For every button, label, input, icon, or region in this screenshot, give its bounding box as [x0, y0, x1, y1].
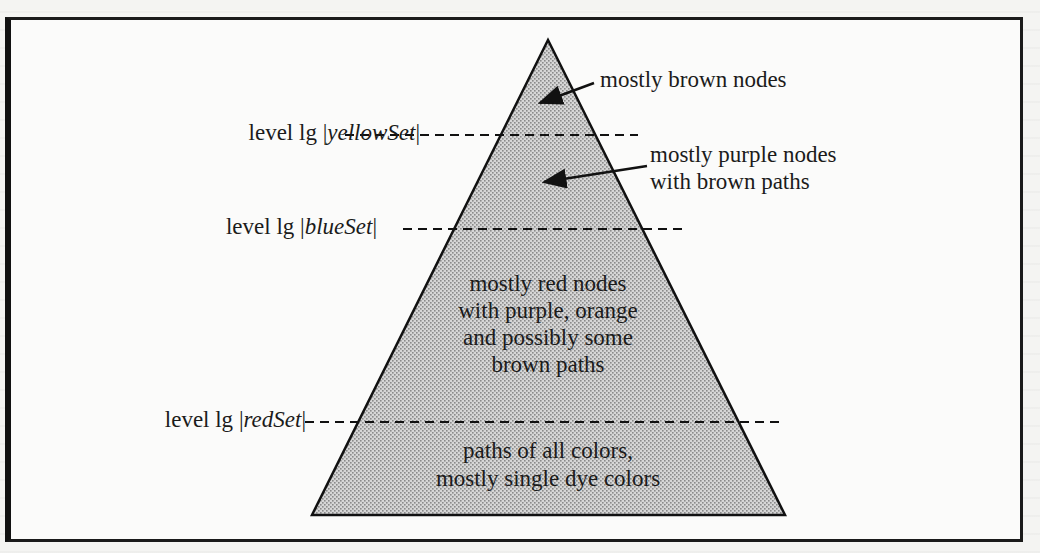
set-name-blueset: blueSet: [305, 214, 373, 239]
region-red-nodes: mostly red nodes with purple, orange and…: [458, 270, 637, 378]
bar-close: |: [415, 120, 420, 145]
bar-close: |: [301, 407, 306, 432]
region-line: brown paths: [458, 351, 637, 378]
level-prefix: level lg: [249, 120, 323, 145]
region-line: paths of all colors,: [436, 437, 660, 465]
level-prefix: level lg: [226, 214, 300, 239]
region-line: mostly red nodes: [458, 270, 637, 297]
level-label-blueset: level lg |blueSet|: [226, 214, 377, 240]
annotation-brown-nodes: mostly brown nodes: [600, 67, 787, 93]
set-name-redset: redSet: [243, 407, 301, 432]
level-prefix: level lg: [165, 407, 239, 432]
level-label-yellowset: level lg |yellowSet|: [249, 120, 420, 146]
annotation-purple-nodes: mostly purple nodes with brown paths: [650, 141, 837, 195]
region-all-colors: paths of all colors, mostly single dye c…: [436, 437, 660, 493]
region-line: and possibly some: [458, 324, 637, 351]
annotation-line: with brown paths: [650, 168, 837, 195]
annotation-line: mostly purple nodes: [650, 141, 837, 168]
set-name-yellowset: yellowSet: [327, 120, 415, 145]
region-line: mostly single dye colors: [436, 465, 660, 493]
bar-close: |: [372, 214, 377, 239]
region-line: with purple, orange: [458, 297, 637, 324]
level-label-redset: level lg |redSet|: [165, 407, 306, 433]
